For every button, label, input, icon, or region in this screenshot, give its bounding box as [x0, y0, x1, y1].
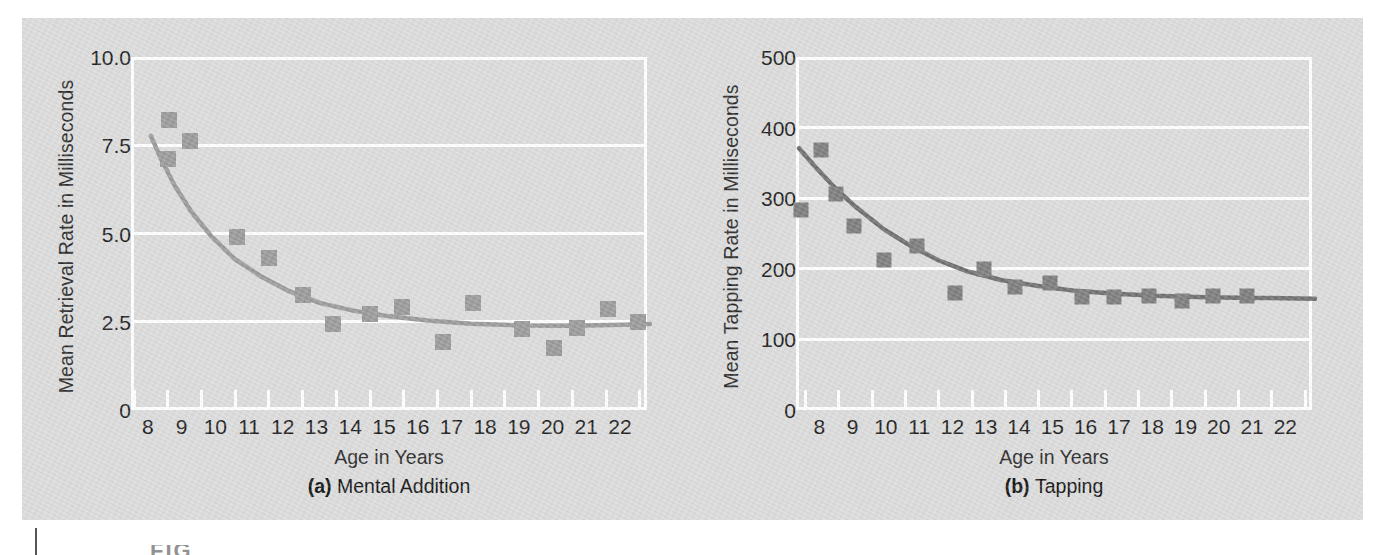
data-point-tapping	[910, 239, 925, 254]
data-point-tapping	[813, 142, 828, 157]
data-point-tapping	[1174, 294, 1189, 309]
data-point-mental-addition	[362, 306, 378, 322]
data-point-mental-addition	[514, 321, 530, 337]
y-tick-label: 0	[119, 400, 131, 421]
x-tick-label: 19	[1174, 414, 1197, 440]
x-tick-label: 15	[1041, 414, 1064, 440]
fit-curve	[134, 60, 650, 413]
x-tick-label: 10	[874, 414, 897, 440]
y-tick-label: 7.5	[102, 135, 131, 156]
data-point-mental-addition	[546, 340, 562, 356]
y-tick-label: 100	[761, 329, 796, 350]
x-tick-label: 16	[406, 414, 429, 440]
data-point-mental-addition	[182, 133, 198, 149]
panel-letter-b: (b)	[1005, 475, 1030, 497]
data-point-mental-addition	[261, 250, 277, 266]
x-tick-label: 11	[908, 414, 930, 440]
data-point-tapping	[793, 202, 808, 217]
data-point-mental-addition	[325, 316, 341, 332]
data-point-tapping	[1043, 276, 1058, 291]
x-tick-label: 14	[339, 414, 362, 440]
chart-panel-tapping: Mean Tapping Rate in Milliseconds 010020…	[694, 18, 1363, 520]
data-point-mental-addition	[229, 229, 245, 245]
plot-area-mental-addition	[131, 57, 647, 410]
subcaption-text-b: Tapping	[1035, 475, 1103, 497]
x-tick-label: 12	[941, 414, 964, 440]
data-point-tapping	[976, 261, 991, 276]
x-tick-label: 18	[1141, 414, 1164, 440]
x-tick-label: 18	[473, 414, 496, 440]
x-tick-label: 17	[1107, 414, 1130, 440]
subcaption-b: (b) Tapping	[796, 475, 1312, 498]
y-tick-label: 10.0	[90, 47, 131, 68]
x-tick-label: 21	[575, 414, 598, 440]
data-point-tapping	[1206, 288, 1221, 303]
data-point-mental-addition	[630, 314, 646, 330]
x-tick-label: 8	[813, 414, 825, 440]
x-tick-label: 13	[305, 414, 328, 440]
data-point-mental-addition	[465, 295, 481, 311]
data-point-tapping	[1141, 288, 1156, 303]
x-tick-label: 15	[372, 414, 395, 440]
x-tick-label: 12	[271, 414, 294, 440]
x-tick-label: 10	[204, 414, 227, 440]
panel-letter-a: (a)	[308, 475, 332, 497]
data-point-mental-addition	[394, 299, 410, 315]
x-tick-label: 21	[1240, 414, 1263, 440]
page-margin-rule	[35, 528, 37, 555]
y-tick-label: 500	[761, 47, 796, 68]
x-axis-title-a: Age in Years	[131, 446, 647, 469]
x-tick-label: 20	[541, 414, 564, 440]
data-point-tapping	[876, 252, 891, 267]
data-point-tapping	[846, 218, 861, 233]
x-tick-label: 22	[608, 414, 631, 440]
data-point-mental-addition	[161, 112, 177, 128]
x-tick-label: 22	[1274, 414, 1297, 440]
y-tick-label: 2.5	[102, 311, 131, 332]
subcaption-a: (a) Mental Addition	[131, 475, 647, 498]
figure-panel: Mean Retrieval Rate in Milliseconds 02.5…	[22, 18, 1363, 520]
fit-curve	[799, 60, 1315, 413]
x-tick-label: 17	[440, 414, 463, 440]
x-tick-label: 11	[238, 414, 260, 440]
x-axis-title-b: Age in Years	[796, 446, 1312, 469]
data-point-mental-addition	[435, 334, 451, 350]
data-point-tapping	[1008, 280, 1023, 295]
subcaption-text-a: Mental Addition	[337, 475, 470, 497]
data-point-tapping	[1074, 290, 1089, 305]
y-tick-label: 0	[784, 400, 796, 421]
data-point-mental-addition	[295, 287, 311, 303]
data-point-mental-addition	[569, 320, 585, 336]
data-point-tapping	[1106, 290, 1121, 305]
x-tick-label: 13	[974, 414, 997, 440]
data-point-tapping	[828, 187, 843, 202]
y-tick-label: 300	[761, 188, 796, 209]
data-point-mental-addition	[160, 151, 176, 167]
data-point-tapping	[1239, 288, 1254, 303]
x-tick-label: 14	[1007, 414, 1030, 440]
x-tick-label: 16	[1074, 414, 1097, 440]
x-tick-label: 8	[142, 414, 154, 440]
data-point-tapping	[948, 285, 963, 300]
y-axis-title-b: Mean Tapping Rate in Milliseconds	[716, 40, 746, 432]
x-tick-label: 9	[176, 414, 188, 440]
chart-panel-mental-addition: Mean Retrieval Rate in Milliseconds 02.5…	[22, 18, 694, 520]
plot-area-tapping	[796, 57, 1312, 410]
y-tick-label: 5.0	[102, 223, 131, 244]
y-tick-label: 200	[761, 258, 796, 279]
y-axis-title-a: Mean Retrieval Rate in Milliseconds	[52, 40, 82, 432]
x-tick-label: 20	[1207, 414, 1230, 440]
x-tick-label: 9	[847, 414, 859, 440]
x-axis-tick-labels-b: 8910111213141516171819202122	[796, 414, 1312, 440]
cropped-caption-text: FIG	[150, 545, 240, 555]
y-tick-label: 400	[761, 117, 796, 138]
x-tick-label: 19	[507, 414, 530, 440]
x-axis-tick-labels-a: 8910111213141516171819202122	[131, 414, 647, 440]
data-point-mental-addition	[600, 301, 616, 317]
